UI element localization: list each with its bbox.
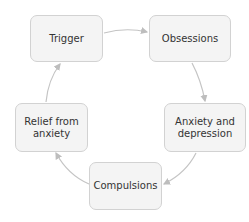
arrow-compulsions-to-relief	[56, 153, 89, 184]
node-label: Compulsions	[94, 180, 158, 192]
node-label: Obsessions	[162, 33, 218, 45]
node-compulsions: Compulsions	[89, 162, 162, 210]
arrow-trigger-to-obsessions	[104, 30, 147, 33]
node-label: Relief from anxiety	[24, 116, 79, 140]
node-relief-from-anxiety: Relief from anxiety	[15, 103, 88, 152]
node-label: Trigger	[49, 33, 84, 45]
arrow-relief-to-trigger	[46, 64, 60, 102]
node-trigger: Trigger	[30, 15, 103, 62]
node-anxiety-and-depression: Anxiety and depression	[164, 103, 246, 152]
arrow-obsessions-to-anxiety	[192, 63, 205, 101]
node-label: Anxiety and depression	[171, 116, 239, 140]
arrow-anxiety-to-compulsions	[164, 153, 196, 184]
node-obsessions: Obsessions	[149, 15, 231, 62]
